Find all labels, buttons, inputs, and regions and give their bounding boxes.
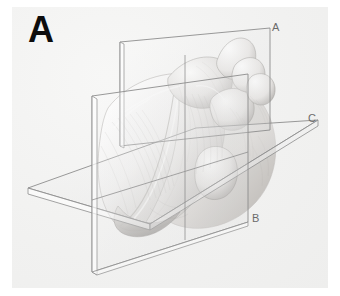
plane-label-c: C: [308, 113, 316, 124]
plane-B-thickness-left: [92, 96, 97, 275]
plane-label-a: A: [272, 22, 279, 33]
panel-letter: A: [28, 12, 54, 48]
figure-plate: A A B C: [0, 0, 340, 296]
plane-B-face: [92, 74, 248, 272]
plane-label-b: B: [252, 213, 259, 224]
plane-B-coronal: [92, 74, 248, 275]
